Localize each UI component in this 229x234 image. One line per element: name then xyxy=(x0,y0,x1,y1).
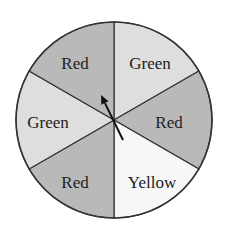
sector-label-red-right: Red xyxy=(155,113,183,132)
sector-label-red-top-left: Red xyxy=(61,54,89,73)
sector-label-green-top-right: Green xyxy=(129,54,171,73)
spinner-diagram: Green Red Yellow Red Green Red xyxy=(0,0,229,234)
sector-label-red-bottom-left: Red xyxy=(61,173,89,192)
sector-label-green-left: Green xyxy=(27,113,69,132)
sector-label-yellow-bottom-right: Yellow xyxy=(128,173,177,192)
